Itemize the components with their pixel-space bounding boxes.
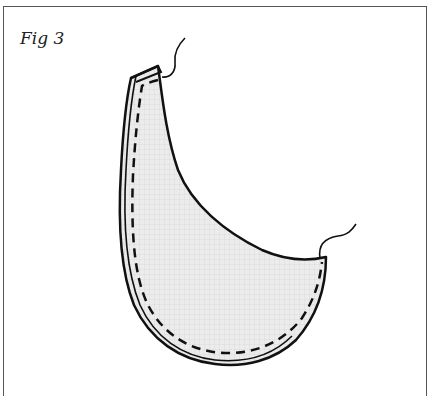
thread-tail-right	[320, 224, 356, 258]
fabric-piece	[120, 66, 326, 365]
thread-tail-top	[162, 38, 185, 77]
